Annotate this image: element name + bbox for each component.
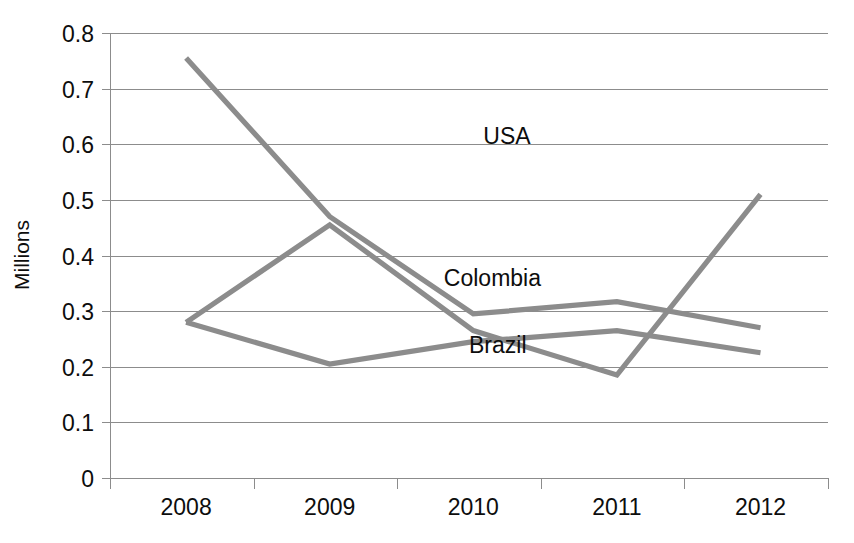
y-axis-tick-label: 0: [81, 466, 94, 492]
series-label-brazil: Brazil: [469, 332, 527, 358]
y-axis-tick-label: 0.3: [62, 299, 94, 325]
series-label-usa: USA: [483, 123, 531, 149]
y-axis-tick-label: 0.5: [62, 188, 94, 214]
x-axis-tick-label: 2010: [448, 494, 499, 520]
x-axis-tick-label: 2009: [304, 494, 355, 520]
series-label-colombia: Colombia: [444, 265, 541, 291]
y-axis-tick-label: 0.2: [62, 355, 94, 381]
gridlines: [110, 34, 828, 479]
y-axis-tick-labels: 00.10.20.30.40.50.60.70.8: [62, 21, 94, 492]
y-axis-title: Millions: [10, 220, 33, 290]
x-axis-tick-label: 2011: [592, 494, 641, 520]
series-lines: [186, 58, 760, 375]
chart-canvas: 00.10.20.30.40.50.60.70.8 20082009201020…: [0, 0, 854, 543]
line-chart: 00.10.20.30.40.50.60.70.8 20082009201020…: [0, 0, 854, 543]
x-axis-tick-label: 2008: [161, 494, 212, 520]
y-axis-tick-label: 0.7: [62, 77, 94, 103]
y-axis-tick-label: 0.6: [62, 132, 94, 158]
y-axis-tick-label: 0.1: [62, 410, 94, 436]
x-axis-tick-label: 2012: [735, 494, 786, 520]
y-axis-tick-label: 0.4: [62, 244, 94, 270]
x-axis-tick-labels: 20082009201020112012: [161, 494, 787, 520]
y-axis-tick-label: 0.8: [62, 21, 94, 47]
tick-marks: [102, 34, 829, 490]
